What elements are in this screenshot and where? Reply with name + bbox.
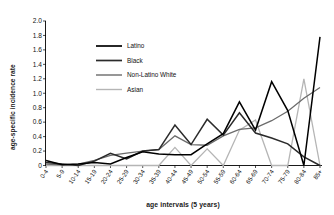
x-tick-label: 5-9 <box>55 168 66 180</box>
x-tick-label: 70-74 <box>260 168 275 185</box>
x-tick-label: 35-39 <box>147 168 162 185</box>
x-tick-label: 15-19 <box>83 168 98 185</box>
series-line-non-latino-white <box>46 87 320 164</box>
y-tick-label: 0.2 <box>33 147 42 154</box>
x-tick-label: 55-59 <box>212 168 227 185</box>
series-line-asian <box>46 79 320 166</box>
y-tick-label: 1.4 <box>33 61 42 68</box>
x-tick-label: 45-49 <box>180 168 195 185</box>
y-tick-label: 0.4 <box>33 133 42 140</box>
y-tick-label: 1.2 <box>33 75 42 82</box>
incidence-rate-line-chart: age-specific incidence rate 00.20.40.60.… <box>0 0 334 215</box>
data-series-group <box>46 37 320 166</box>
x-tick-label: 10-14 <box>67 168 82 185</box>
x-tick-label: 60-64 <box>228 168 243 185</box>
x-tick-label: 75-79 <box>276 168 291 185</box>
y-tick-label: 0 <box>38 162 42 169</box>
x-axis-title-text: age intervals (5 years) <box>146 201 220 209</box>
x-tick-label: 85+ <box>312 168 324 181</box>
x-tick-label: 20-24 <box>99 168 114 185</box>
y-tick-label: 1.6 <box>33 46 42 53</box>
series-line-black <box>46 113 320 166</box>
y-axis-tick-labels: 00.20.40.60.81.01.21.41.61.82.0 <box>33 17 46 169</box>
legend-label-black: Black <box>127 57 143 64</box>
y-tick-label: 1.8 <box>33 32 42 39</box>
x-tick-label: 80-84 <box>292 168 307 185</box>
y-tick-label: 0.6 <box>33 118 42 125</box>
x-axis-tick-labels: 0-45-910-1415-1920-2425-2930-3435-3940-4… <box>38 166 323 186</box>
y-axis-title-text: age-specific incidence rate <box>9 64 17 150</box>
axis-lines <box>46 21 323 166</box>
y-tick-label: 2.0 <box>33 17 42 24</box>
x-tick-label: 40-44 <box>163 168 178 185</box>
x-tick-label: 30-34 <box>131 168 146 185</box>
legend-label-non-latino-white: Non-Latino White <box>127 71 177 78</box>
chart-container: age-specific incidence rate 00.20.40.60.… <box>0 0 334 215</box>
legend-label-asian: Asian <box>127 86 143 93</box>
x-tick-label: 0-4 <box>38 168 49 180</box>
y-axis-title: age-specific incidence rate <box>9 64 17 150</box>
x-tick-label: 25-29 <box>115 168 130 185</box>
chart-legend: LatinoBlackNon-Latino WhiteAsian <box>96 42 177 93</box>
x-tick-label: 50-54 <box>196 168 211 185</box>
y-tick-label: 1.0 <box>33 90 42 97</box>
y-tick-label: 0.8 <box>33 104 42 111</box>
x-tick-label: 65-69 <box>244 168 259 185</box>
series-line-latino <box>46 37 320 166</box>
legend-label-latino: Latino <box>127 42 145 49</box>
